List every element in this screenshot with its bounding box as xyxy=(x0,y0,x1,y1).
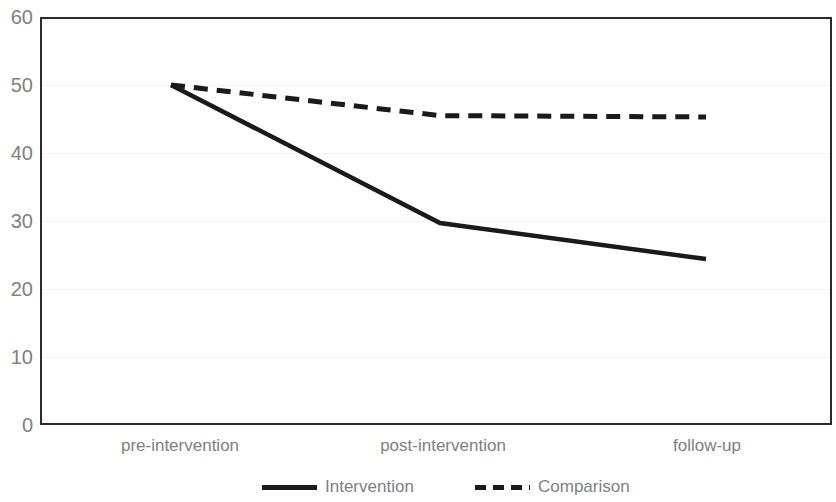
y-axis-tick-label: 0 xyxy=(0,415,33,435)
legend-dashed-line-icon xyxy=(475,479,530,495)
gridline-10 xyxy=(42,357,830,358)
y-axis-tick-label: 50 xyxy=(0,75,33,95)
line-chart: 60 50 40 30 20 10 0 pre-intervention pos… xyxy=(0,0,836,502)
legend-label-comparison: Comparison xyxy=(538,477,630,497)
y-axis-tick-label: 20 xyxy=(0,279,33,299)
gridline-20 xyxy=(42,289,830,290)
legend-solid-line-icon xyxy=(262,479,317,495)
y-axis-tick-label: 30 xyxy=(0,211,33,231)
x-axis-tick-label-post: post-intervention xyxy=(380,436,506,456)
y-axis-tick-label: 60 xyxy=(0,7,33,27)
y-axis-tick-label: 40 xyxy=(0,143,33,163)
x-axis-tick-label-pre: pre-intervention xyxy=(121,436,239,456)
chart-legend: Intervention Comparison xyxy=(0,472,836,502)
legend-item-comparison: Comparison xyxy=(475,472,630,502)
y-axis-tick-label: 10 xyxy=(0,347,33,367)
legend-label-intervention: Intervention xyxy=(325,477,414,497)
legend-item-intervention: Intervention xyxy=(262,472,414,502)
gridline-40 xyxy=(42,153,830,154)
gridline-30 xyxy=(42,221,830,222)
x-axis-tick-label-followup: follow-up xyxy=(673,436,741,456)
plot-area xyxy=(40,17,832,425)
gridline-50 xyxy=(42,85,830,86)
